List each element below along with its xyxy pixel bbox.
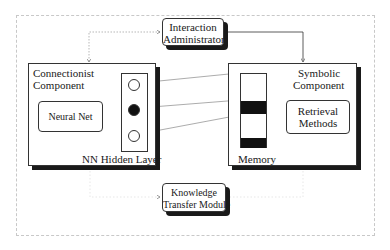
symbolic-title-line2: Component [293, 79, 344, 91]
ia-label-line2: Administrator [163, 33, 223, 45]
neural-net-box: Neural Net [38, 101, 103, 132]
connectionist-title-line1: Connectionist [33, 67, 94, 79]
ktm-label-line2: Transfer Module [163, 199, 225, 211]
retrieval-line2: Methods [287, 117, 349, 129]
retrieval-methods-box: Retrieval Methods [286, 100, 350, 134]
hidden-layer-box [121, 73, 148, 152]
hidden-node-3 [128, 130, 140, 142]
wire-ia-connectionist [89, 32, 160, 62]
memory-column [240, 73, 267, 148]
symbolic-title-line1: Symbolic [298, 67, 340, 79]
symbolic-component-box: Symbolic Component Memory Retrieval Meth… [228, 63, 357, 166]
neural-net-label: Neural Net [39, 111, 102, 123]
connectionist-title-line2: Component [33, 79, 84, 91]
wire-ia-symbolic [226, 32, 303, 62]
memory-slot-active [241, 101, 266, 114]
wire-symbolic-ktm [228, 171, 303, 197]
ia-label-line1: Interaction [163, 21, 223, 33]
hidden-layer-label: NN Hidden Layer [82, 153, 161, 165]
memory-slot-bottom [241, 138, 266, 148]
ktm-label-line1: Knowledge [163, 187, 225, 199]
retrieval-line1: Retrieval [287, 105, 349, 117]
memory-label: Memory [238, 153, 276, 165]
hidden-node-1 [128, 79, 140, 91]
interaction-administrator-box: Interaction Administrator [162, 18, 224, 46]
knowledge-transfer-module-box: Knowledge Transfer Module [162, 183, 226, 212]
hidden-node-2 [128, 104, 140, 116]
wire-connectionist-ktm [90, 171, 160, 197]
connectionist-component-box: Connectionist Component Neural Net NN Hi… [28, 63, 156, 166]
